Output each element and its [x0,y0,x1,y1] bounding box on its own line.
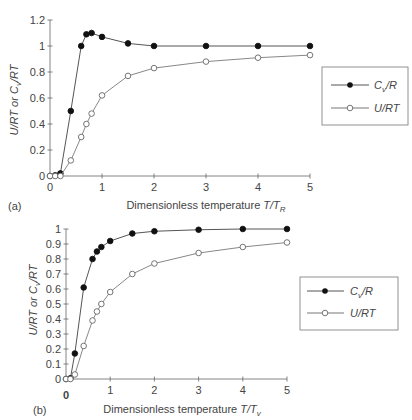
open-circle-marker-icon [84,121,90,127]
open-circle-marker-icon [307,52,313,58]
open-circle-marker-icon [90,318,96,324]
filled-circle-marker-icon [68,108,74,114]
x-tick-label: 4 [255,181,261,193]
y-tick-label: 0 [55,373,61,385]
filled-circle-marker-icon [125,41,131,47]
series-line [50,55,310,176]
filled-circle-marker-icon [94,249,100,255]
open-circle-marker-icon [125,73,131,79]
axes-b: 1234500.10.20.30.40.50.60.70.80.91 [46,223,290,396]
x-tick-label: 2 [151,384,157,396]
open-circle-marker-icon [107,289,113,295]
y-tick-label: 0.5 [46,298,61,310]
y-tick-label: 0.2 [30,144,45,156]
filled-circle-marker-icon [307,43,313,49]
filled-circle-marker-icon [203,43,209,49]
filled-circle-marker-icon [152,228,158,234]
panel-label-b: (b) [33,404,46,416]
filled-circle-marker-icon [72,351,78,357]
open-circle-marker-icon [240,244,246,250]
panel-label-a: (a) [8,200,21,212]
y-tick-label: 0.4 [30,118,45,130]
legend-b: Cv/R U/RT [300,277,398,330]
y-tick-label: 0.2 [46,343,61,355]
legend-marker-open-icon [322,310,328,316]
x-tick-label: 5 [307,181,313,193]
y-tick-label: 0 [39,170,45,182]
open-circle-marker-icon [196,250,202,256]
y-tick-label: 1 [39,40,45,52]
x-tick-label: 2 [151,181,157,193]
open-circle-marker-icon [203,59,209,65]
x-axis-title-a: Dimensionless temperature T/TR [126,199,285,214]
y-tick-label: 0.8 [30,66,45,78]
open-circle-marker-icon [284,240,290,246]
y-tick-label: 1 [55,223,61,235]
open-circle-marker-icon [99,93,105,99]
legend-label-u: U/RT [374,102,401,114]
legend-marker-filled-icon [322,288,328,294]
filled-circle-marker-icon [130,231,136,237]
open-circle-marker-icon [68,376,74,382]
open-circle-marker-icon [89,111,95,117]
chart-panel-a: 01234500.20.40.60.811.2 U/RT or Cv/RT Di… [8,14,408,214]
filled-circle-marker-icon [78,43,84,49]
y-axis-title-b: U/RT or Cv/RT [27,263,42,335]
filled-circle-marker-icon [151,43,157,49]
filled-circle-marker-icon [240,226,246,232]
x-tick-label: 4 [240,384,246,396]
series-a [47,30,313,179]
open-circle-marker-icon [58,173,64,179]
filled-circle-marker-icon [84,32,90,38]
y-tick-label: 0.6 [46,283,61,295]
x-tick-label: 0 [47,181,53,193]
x-tick-label: 3 [203,181,209,193]
open-circle-marker-icon [255,55,261,61]
y-tick-label: 0.3 [46,328,61,340]
y-tick-label: 0.8 [46,253,61,265]
y-axis-title-a: U/RT or Cv/RT [8,63,23,135]
x-tick-label: 3 [196,384,202,396]
open-circle-marker-icon [130,271,136,277]
filled-circle-marker-icon [89,30,95,36]
filled-circle-marker-icon [284,226,290,232]
open-circle-marker-icon [99,301,105,307]
x-tick-label: 5 [284,384,290,396]
filled-circle-marker-icon [107,238,113,244]
filled-circle-marker-icon [255,43,261,49]
legend-a: Cv/R U/RT [322,67,408,125]
open-circle-marker-icon [151,65,157,71]
filled-circle-marker-icon [81,285,87,291]
x-axis-title-b: Dimensionless temperature T/Tv [103,403,261,418]
figure: 01234500.20.40.60.811.2 U/RT or Cv/RT Di… [0,0,412,420]
y-tick-label: 0.1 [46,358,61,370]
open-circle-marker-icon [94,309,100,315]
y-tick-label: 0.9 [46,238,61,250]
legend-label-u: U/RT [350,307,377,319]
filled-circle-marker-icon [196,227,202,233]
open-circle-marker-icon [78,134,84,140]
y-tick-label: 1.2 [30,14,45,26]
open-circle-marker-icon [68,158,74,164]
open-circle-marker-icon [81,343,87,349]
y-tick-label: 0.7 [46,268,61,280]
series-line [50,33,310,176]
open-circle-marker-icon [72,372,78,378]
legend-marker-open-icon [347,105,353,111]
chart-panel-b: 1234500.10.20.30.40.50.60.70.80.91 U/RT … [27,223,398,418]
legend-marker-filled-icon [347,82,353,88]
y-tick-label: 0.6 [30,92,45,104]
x-tick-label: 1 [99,181,105,193]
filled-circle-marker-icon [99,34,105,40]
x-origin-label-b: 0 [63,389,69,401]
open-circle-marker-icon [152,261,158,267]
filled-circle-marker-icon [99,244,105,250]
series-b [63,226,290,382]
x-tick-label: 1 [107,384,113,396]
y-tick-label: 0.4 [46,313,61,325]
filled-circle-marker-icon [90,256,96,262]
